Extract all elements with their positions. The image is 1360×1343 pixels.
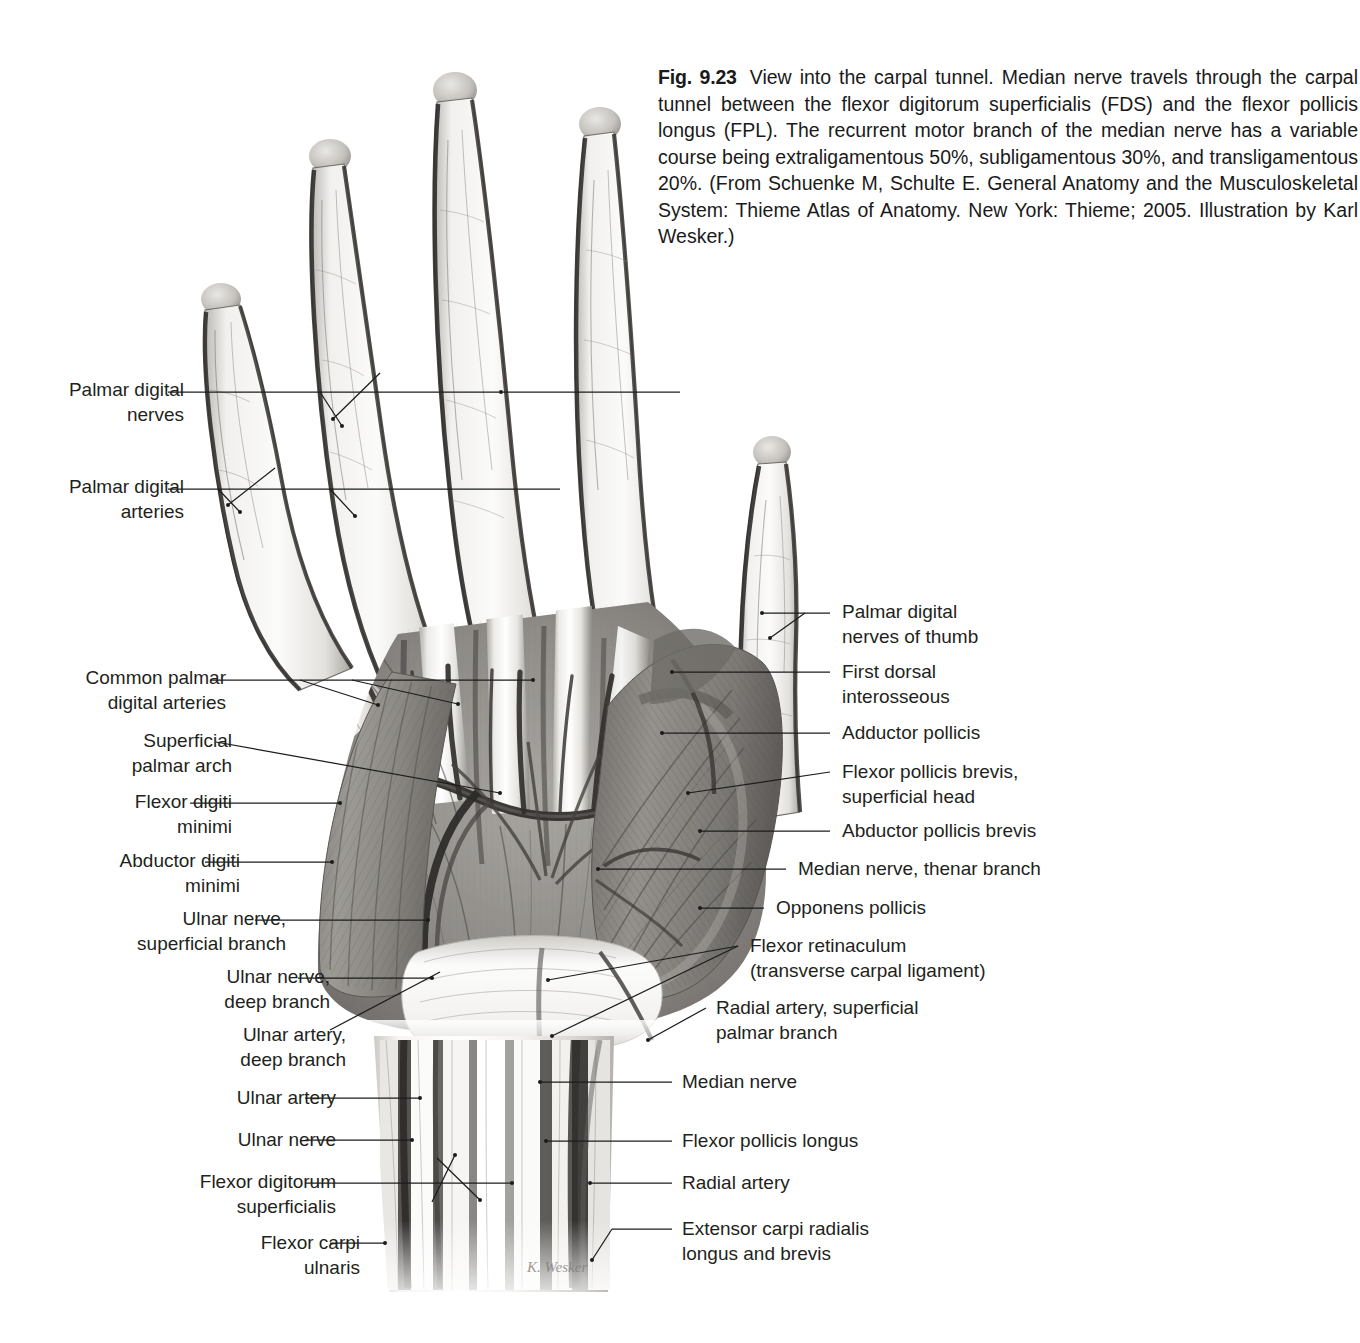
label-flexor-digiti-minimi: Flexor digiti minimi	[50, 790, 232, 839]
label-median-nerve-thenar-branch: Median nerve, thenar branch	[798, 857, 1198, 882]
label-opponens-pollicis: Opponens pollicis	[776, 896, 1116, 921]
label-ulnar-nerve-deep-branch: Ulnar nerve, deep branch	[108, 965, 330, 1014]
label-radial-artery: Radial artery	[682, 1171, 1022, 1196]
figure-caption: Fig. 9.23View into the carpal tunnel. Me…	[658, 64, 1358, 250]
label-first-dorsal-interosseous: First dorsal interosseous	[842, 660, 1162, 709]
label-ulnar-artery-deep-branch: Ulnar artery, deep branch	[120, 1023, 346, 1072]
label-extensor-carpi-radialis: Extensor carpi radialis longus and brevi…	[682, 1217, 1042, 1266]
label-palmar-digital-nerves: Palmar digital nerves	[0, 378, 184, 427]
figure-caption-text: View into the carpal tunnel. Median nerv…	[658, 66, 1358, 247]
label-ulnar-nerve-superficial-branch: Ulnar nerve, superficial branch	[58, 907, 286, 956]
figure-page: K. Wesker	[0, 0, 1360, 1343]
label-palmar-digital-arteries: Palmar digital arteries	[0, 475, 184, 524]
figure-number: Fig. 9.23	[658, 66, 737, 88]
forearm: K. Wesker	[360, 1030, 630, 1310]
label-median-nerve: Median nerve	[682, 1070, 1022, 1095]
label-flexor-pollicis-longus: Flexor pollicis longus	[682, 1129, 1022, 1154]
finger-ring	[309, 139, 442, 690]
label-ulnar-nerve: Ulnar nerve	[110, 1128, 336, 1153]
label-flexor-carpi-ulnaris: Flexor carpi ulnaris	[110, 1231, 360, 1280]
label-common-palmar-digital-arteries: Common palmar digital arteries	[30, 666, 226, 715]
label-flexor-digitorum-superficialis: Flexor digitorum superficialis	[86, 1170, 336, 1219]
label-superficial-palmar-arch: Superficial palmar arch	[64, 729, 232, 778]
label-palmar-digital-nerves-of-thumb: Palmar digital nerves of thumb	[842, 600, 1162, 649]
finger-middle	[433, 72, 552, 700]
label-flexor-pollicis-brevis: Flexor pollicis brevis, superficial head	[842, 760, 1182, 809]
label-flexor-retinaculum: Flexor retinaculum (transverse carpal li…	[750, 934, 1150, 983]
label-ulnar-artery: Ulnar artery	[110, 1086, 336, 1111]
artist-signature: K. Wesker	[526, 1259, 587, 1275]
label-adductor-pollicis: Adductor pollicis	[842, 721, 1182, 746]
label-radial-artery-superficial-palmar-branch: Radial artery, superficial palmar branch	[716, 996, 1096, 1045]
label-abductor-digiti-minimi: Abductor digiti minimi	[44, 849, 240, 898]
label-abductor-pollicis-brevis: Abductor pollicis brevis	[842, 819, 1202, 844]
